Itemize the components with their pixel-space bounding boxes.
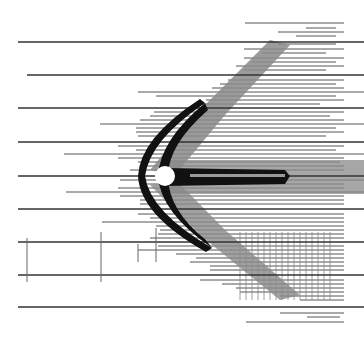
mesh-canvas bbox=[0, 0, 364, 342]
cylinder-body bbox=[155, 166, 175, 186]
mesh-figure bbox=[0, 0, 364, 342]
vertical-grid-ticks bbox=[27, 228, 156, 282]
